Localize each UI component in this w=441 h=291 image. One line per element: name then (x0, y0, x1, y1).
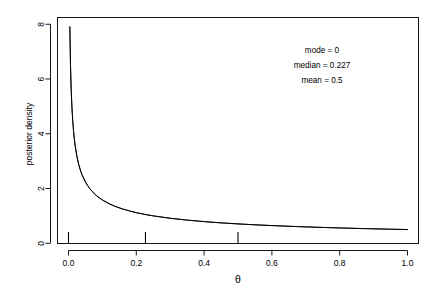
y-axis: 8 6 4 2 0 posterior density (24, 22, 51, 246)
summary-annotations: mode = 0 median = 0.227 mean = 0.5 (294, 46, 351, 85)
annotation-median: median = 0.227 (294, 61, 351, 70)
y-tick-label: 6 (36, 76, 46, 81)
y-tick-0: 0 (36, 241, 51, 246)
x-tick-label: 1.0 (402, 258, 414, 268)
y-axis-title: posterior density (24, 102, 34, 165)
x-tick-1-0: 1.0 (402, 251, 414, 269)
posterior-density-curve-main (70, 27, 408, 230)
x-tick-0-8: 0.8 (334, 251, 346, 269)
summary-rug-marks (69, 232, 239, 243)
y-tick-label: 2 (36, 186, 46, 191)
x-tick-label: 0.2 (130, 258, 142, 268)
y-tick-label: 0 (36, 241, 46, 246)
x-tick-label: 0.8 (334, 258, 346, 268)
x-tick-label: 0.4 (198, 258, 210, 268)
annotation-mean: mean = 0.5 (301, 76, 343, 85)
x-axis: 0.0 0.2 0.4 0.6 0.8 (63, 251, 414, 286)
x-tick-0-6: 0.6 (266, 251, 278, 269)
posterior-density-figure: 8 6 4 2 0 posterior density (0, 0, 441, 291)
plot-canvas: 8 6 4 2 0 posterior density (0, 0, 441, 291)
plot-frame (58, 18, 419, 244)
y-tick-8: 8 (36, 22, 51, 27)
x-axis-title: θ (235, 273, 241, 285)
posterior-density-curve (70, 27, 408, 230)
x-tick-0-2: 0.2 (130, 251, 142, 269)
x-tick-0-0: 0.0 (63, 251, 75, 269)
y-tick-4: 4 (36, 131, 51, 136)
y-tick-label: 8 (36, 22, 46, 27)
x-tick-label: 0.6 (266, 258, 278, 268)
y-tick-6: 6 (36, 76, 51, 81)
y-tick-label: 4 (36, 131, 46, 136)
x-tick-0-4: 0.4 (198, 251, 210, 269)
x-tick-label: 0.0 (63, 258, 75, 268)
annotation-mode: mode = 0 (305, 46, 340, 55)
y-tick-2: 2 (36, 186, 51, 191)
